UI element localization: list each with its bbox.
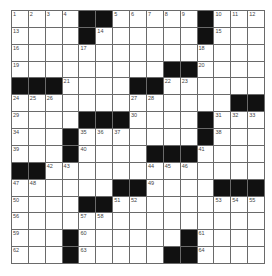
grid-cell[interactable] bbox=[29, 129, 46, 146]
grid-cell[interactable]: 41 bbox=[198, 146, 215, 163]
grid-cell[interactable] bbox=[147, 230, 164, 247]
grid-cell[interactable] bbox=[46, 146, 63, 163]
grid-cell[interactable] bbox=[29, 112, 46, 129]
grid-cell[interactable]: 44 bbox=[147, 163, 164, 180]
grid-cell[interactable] bbox=[214, 95, 231, 112]
grid-cell[interactable]: 57 bbox=[79, 213, 96, 230]
grid-cell[interactable] bbox=[198, 78, 215, 95]
grid-cell[interactable]: 51 bbox=[113, 197, 130, 214]
grid-cell[interactable] bbox=[231, 28, 248, 45]
grid-cell[interactable] bbox=[96, 78, 113, 95]
grid-cell[interactable] bbox=[46, 180, 63, 197]
grid-cell[interactable] bbox=[164, 230, 181, 247]
grid-cell[interactable] bbox=[181, 112, 198, 129]
grid-cell[interactable] bbox=[181, 213, 198, 230]
grid-cell[interactable] bbox=[248, 146, 265, 163]
grid-cell[interactable]: 29 bbox=[12, 112, 29, 129]
grid-cell[interactable] bbox=[248, 62, 265, 79]
grid-cell[interactable] bbox=[214, 163, 231, 180]
grid-cell[interactable] bbox=[214, 45, 231, 62]
grid-cell[interactable] bbox=[181, 197, 198, 214]
grid-cell[interactable] bbox=[96, 62, 113, 79]
grid-cell[interactable] bbox=[113, 163, 130, 180]
grid-cell[interactable]: 24 bbox=[12, 95, 29, 112]
grid-cell[interactable]: 42 bbox=[46, 163, 63, 180]
grid-cell[interactable]: 8 bbox=[164, 11, 181, 28]
grid-cell[interactable] bbox=[113, 146, 130, 163]
grid-cell[interactable] bbox=[130, 230, 147, 247]
grid-cell[interactable]: 49 bbox=[147, 180, 164, 197]
grid-cell[interactable] bbox=[113, 213, 130, 230]
grid-cell[interactable] bbox=[248, 230, 265, 247]
grid-cell[interactable] bbox=[113, 62, 130, 79]
grid-cell[interactable] bbox=[46, 28, 63, 45]
grid-cell[interactable] bbox=[231, 146, 248, 163]
grid-cell[interactable]: 6 bbox=[130, 11, 147, 28]
grid-cell[interactable] bbox=[248, 213, 265, 230]
grid-cell[interactable] bbox=[147, 213, 164, 230]
grid-cell[interactable]: 9 bbox=[181, 11, 198, 28]
grid-cell[interactable]: 4 bbox=[63, 11, 80, 28]
grid-cell[interactable]: 34 bbox=[12, 129, 29, 146]
grid-cell[interactable]: 38 bbox=[214, 129, 231, 146]
grid-cell[interactable]: 36 bbox=[96, 129, 113, 146]
grid-cell[interactable] bbox=[198, 95, 215, 112]
grid-cell[interactable] bbox=[113, 230, 130, 247]
grid-cell[interactable] bbox=[181, 95, 198, 112]
grid-cell[interactable] bbox=[164, 45, 181, 62]
grid-cell[interactable] bbox=[63, 180, 80, 197]
grid-cell[interactable] bbox=[130, 28, 147, 45]
grid-cell[interactable] bbox=[63, 62, 80, 79]
grid-cell[interactable] bbox=[164, 112, 181, 129]
grid-cell[interactable]: 45 bbox=[164, 163, 181, 180]
grid-cell[interactable] bbox=[79, 62, 96, 79]
grid-cell[interactable] bbox=[181, 180, 198, 197]
grid-cell[interactable] bbox=[164, 180, 181, 197]
grid-cell[interactable]: 39 bbox=[12, 146, 29, 163]
grid-cell[interactable] bbox=[198, 180, 215, 197]
grid-cell[interactable] bbox=[130, 45, 147, 62]
grid-cell[interactable] bbox=[46, 45, 63, 62]
grid-cell[interactable] bbox=[147, 45, 164, 62]
grid-cell[interactable]: 55 bbox=[248, 197, 265, 214]
grid-cell[interactable]: 63 bbox=[79, 247, 96, 264]
grid-cell[interactable]: 25 bbox=[29, 95, 46, 112]
grid-cell[interactable]: 60 bbox=[79, 230, 96, 247]
grid-cell[interactable] bbox=[130, 62, 147, 79]
grid-cell[interactable] bbox=[248, 129, 265, 146]
grid-cell[interactable]: 32 bbox=[231, 112, 248, 129]
grid-cell[interactable]: 56 bbox=[12, 213, 29, 230]
grid-cell[interactable]: 59 bbox=[12, 230, 29, 247]
grid-cell[interactable] bbox=[113, 78, 130, 95]
grid-cell[interactable]: 11 bbox=[231, 11, 248, 28]
grid-cell[interactable] bbox=[248, 163, 265, 180]
grid-cell[interactable]: 43 bbox=[63, 163, 80, 180]
grid-cell[interactable] bbox=[29, 213, 46, 230]
grid-cell[interactable]: 17 bbox=[79, 45, 96, 62]
grid-cell[interactable] bbox=[130, 213, 147, 230]
grid-cell[interactable] bbox=[231, 129, 248, 146]
grid-cell[interactable] bbox=[113, 95, 130, 112]
grid-cell[interactable] bbox=[198, 197, 215, 214]
grid-cell[interactable] bbox=[46, 112, 63, 129]
grid-cell[interactable]: 64 bbox=[198, 247, 215, 264]
grid-cell[interactable]: 21 bbox=[63, 78, 80, 95]
grid-cell[interactable] bbox=[29, 45, 46, 62]
grid-cell[interactable]: 7 bbox=[147, 11, 164, 28]
grid-cell[interactable]: 35 bbox=[79, 129, 96, 146]
grid-cell[interactable] bbox=[79, 95, 96, 112]
grid-cell[interactable] bbox=[231, 230, 248, 247]
grid-cell[interactable] bbox=[248, 247, 265, 264]
grid-cell[interactable]: 62 bbox=[12, 247, 29, 264]
grid-cell[interactable] bbox=[181, 28, 198, 45]
grid-cell[interactable]: 27 bbox=[130, 95, 147, 112]
grid-cell[interactable]: 5 bbox=[113, 11, 130, 28]
grid-cell[interactable] bbox=[214, 78, 231, 95]
grid-cell[interactable] bbox=[96, 146, 113, 163]
grid-cell[interactable] bbox=[63, 197, 80, 214]
grid-cell[interactable] bbox=[96, 180, 113, 197]
grid-cell[interactable]: 14 bbox=[96, 28, 113, 45]
grid-cell[interactable] bbox=[46, 247, 63, 264]
grid-cell[interactable]: 53 bbox=[214, 197, 231, 214]
grid-cell[interactable] bbox=[29, 247, 46, 264]
